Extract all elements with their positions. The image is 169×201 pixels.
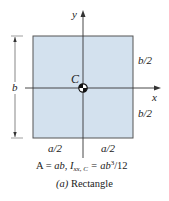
half-height-bottom-label: b/2 — [138, 108, 152, 119]
area-lhs: A = — [36, 160, 54, 171]
caption: (a) Rectangle — [56, 179, 113, 190]
x-axis-label: x — [152, 92, 157, 103]
inertia-subscript: xx, C — [73, 165, 87, 173]
y-axis-arrow-icon — [81, 10, 86, 17]
formula: A = ab, Ixx, C = ab3/12 — [36, 160, 128, 173]
x-axis-arrow-icon — [154, 86, 161, 91]
inertia-tail: /12 — [114, 160, 127, 171]
y-axis-label: y — [72, 9, 77, 20]
caption-title: Rectangle — [68, 178, 113, 189]
inertia-eq: = ab — [88, 160, 111, 171]
dimension-arrow-down-icon — [13, 132, 16, 137]
half-height-top-label: b/2 — [138, 55, 152, 66]
area-rhs: ab — [54, 160, 65, 171]
centroid-label: C — [71, 73, 79, 85]
height-label: b — [12, 82, 18, 93]
half-width-right-label: a/2 — [101, 143, 115, 154]
caption-letter: (a) — [56, 178, 68, 189]
centroid-icon — [79, 84, 87, 92]
half-width-left-label: a/2 — [48, 143, 62, 154]
dimension-arrow-up-icon — [13, 37, 16, 42]
